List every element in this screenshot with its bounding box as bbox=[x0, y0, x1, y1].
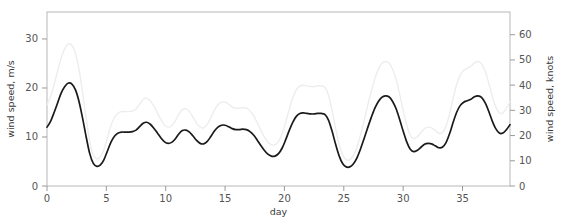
ghost-series-line bbox=[47, 44, 510, 160]
right-tick-label: 20 bbox=[519, 130, 532, 141]
right-axis-ticks: 0102030405060 bbox=[510, 29, 532, 191]
chart-canvas: 0102030 0102030405060 05101520253035 win… bbox=[0, 0, 569, 224]
right-tick-label: 10 bbox=[519, 155, 532, 166]
right-tick-label: 0 bbox=[519, 181, 525, 192]
wind-speed-line bbox=[47, 83, 510, 167]
bottom-tick-label: 20 bbox=[278, 193, 291, 204]
right-tick-label: 30 bbox=[519, 105, 532, 116]
bottom-tick-label: 25 bbox=[337, 193, 350, 204]
left-tick-label: 10 bbox=[25, 131, 38, 142]
bottom-tick-label: 35 bbox=[456, 193, 469, 204]
right-axis-title: wind speed, knots bbox=[544, 56, 555, 142]
bottom-axis-ticks: 05101520253035 bbox=[44, 186, 469, 204]
left-tick-label: 20 bbox=[25, 82, 38, 93]
left-axis-ticks: 0102030 bbox=[25, 33, 47, 191]
data-series-group bbox=[47, 44, 510, 168]
bottom-tick-label: 0 bbox=[44, 193, 50, 204]
x-axis-title: day bbox=[270, 206, 288, 217]
left-tick-label: 0 bbox=[32, 181, 38, 192]
bottom-tick-label: 10 bbox=[159, 193, 172, 204]
bottom-tick-label: 30 bbox=[397, 193, 410, 204]
right-tick-label: 50 bbox=[519, 54, 532, 65]
right-tick-label: 60 bbox=[519, 29, 532, 40]
bottom-tick-label: 5 bbox=[103, 193, 109, 204]
plot-frame bbox=[47, 12, 510, 186]
wind-speed-chart: 0102030 0102030405060 05101520253035 win… bbox=[0, 0, 569, 224]
plot-border bbox=[47, 12, 510, 186]
right-tick-label: 40 bbox=[519, 80, 532, 91]
left-tick-label: 30 bbox=[25, 33, 38, 44]
left-axis-title: wind speed, m/s bbox=[5, 60, 16, 138]
bottom-tick-label: 15 bbox=[219, 193, 232, 204]
